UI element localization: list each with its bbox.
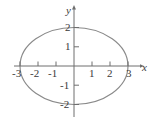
y-tick-label-neg2: -2	[60, 99, 69, 110]
x-tick-label-pos2: 2	[107, 68, 113, 79]
x-tick-label-neg3: -3	[12, 68, 21, 79]
ellipse-graph-figure: -3 -2 -1 1 2 3 2 1 -1 -2 y x	[0, 0, 153, 124]
x-tick-label-pos3: 3	[126, 68, 132, 79]
x-tick-label-pos1: 1	[89, 68, 95, 79]
x-tick-label-neg2: -2	[30, 68, 39, 79]
y-tick-label-pos1: 1	[65, 41, 71, 52]
y-tick-label-pos2: 2	[65, 22, 71, 33]
y-tick-label-neg1: -1	[60, 80, 69, 91]
x-axis-label: x	[142, 62, 147, 73]
coordinate-plot	[0, 0, 153, 124]
y-axis-label: y	[66, 5, 71, 16]
x-tick-label-neg1: -1	[48, 68, 57, 79]
